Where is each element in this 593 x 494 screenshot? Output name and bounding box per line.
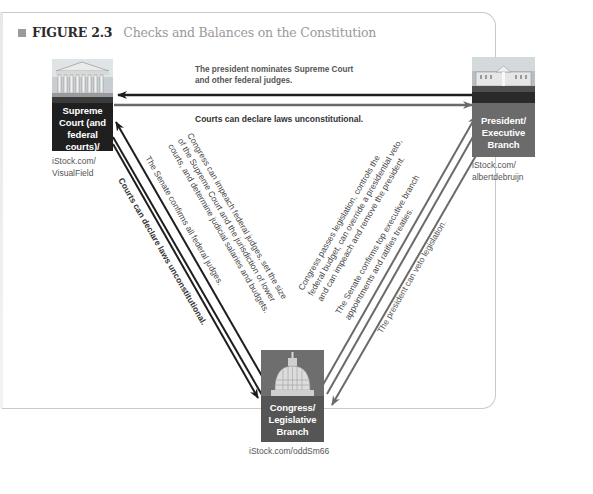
capitol-dome-icon	[261, 350, 324, 396]
legislative-branch-label: Congress/ Legislative Branch	[261, 402, 324, 438]
executive-photo-credit: iStock.com/ albertdebruijn	[472, 159, 524, 183]
judicial-branch-card: Supreme Court (and federal courts)/ Judi…	[52, 59, 113, 151]
executive-branch-label: President/ Executive Branch	[472, 115, 535, 151]
executive-branch-card: President/ Executive Branch	[472, 57, 535, 157]
supreme-court-building-icon	[52, 59, 113, 103]
white-house-icon	[472, 57, 535, 103]
text-executive-to-judicial: The president nominates Supreme Court an…	[195, 64, 353, 86]
legislative-branch-card: Congress/ Legislative Branch	[261, 350, 324, 442]
text-judicial-to-executive: Courts can declare laws unconstitutional…	[195, 114, 363, 125]
legislative-photo-credit: iStock.com/oddSm66	[249, 445, 329, 457]
judicial-photo-credit: iStock.com/ VisualField	[52, 155, 96, 179]
